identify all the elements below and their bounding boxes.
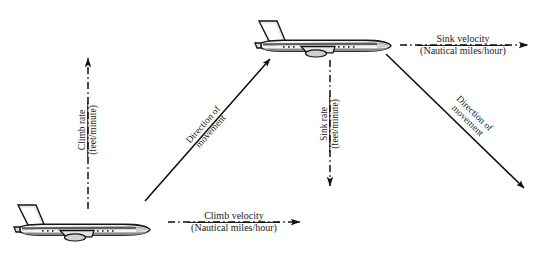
climb-rate-numerator: Climb rate (77, 102, 87, 158)
sink-rate-numerator: Sink rate (319, 96, 329, 152)
climb-rate-label: Climb rate (feet/minute) (77, 102, 99, 158)
sink-rate-denominator: (feet/minute) (330, 96, 341, 152)
sink-velocity-label: Sink velocity (Nautical miles/hour) (417, 34, 509, 56)
sink-velocity-denominator: (Nautical miles/hour) (417, 45, 509, 57)
sink-rate-label: Sink rate (feet/minute) (319, 96, 341, 152)
aircraft-lower-left (14, 205, 150, 241)
climb-velocity-label: Climb velocity (Nautical miles/hour) (188, 211, 280, 233)
climb-rate-denominator: (feet/minute) (88, 102, 99, 158)
sink-velocity-numerator: Sink velocity (417, 34, 509, 45)
aircraft-vector-diagram: Climb rate (feet/minute) Climb velocity … (0, 0, 556, 254)
climb-velocity-denominator: (Nautical miles/hour) (188, 222, 280, 234)
climb-velocity-numerator: Climb velocity (188, 211, 280, 222)
aircraft-upper-middle (255, 21, 391, 57)
descent-movement-vector (386, 54, 524, 188)
